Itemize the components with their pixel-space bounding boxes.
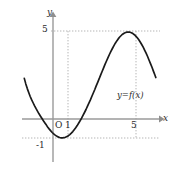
x-tick-label-5: 5	[131, 121, 137, 130]
y-tick-label-minus1: -1	[36, 141, 45, 150]
y-axis-label: y	[47, 8, 52, 17]
function-label: y=f(x)	[117, 91, 144, 100]
x-tick-label-1: 1	[65, 121, 71, 130]
origin-label: O	[55, 121, 62, 130]
graph-figure: y x 5 O 1 5 -1 y=f(x)	[0, 0, 180, 178]
x-axis-label: x	[163, 114, 168, 123]
plot-canvas	[0, 0, 180, 178]
y-tick-label-5: 5	[42, 25, 48, 34]
